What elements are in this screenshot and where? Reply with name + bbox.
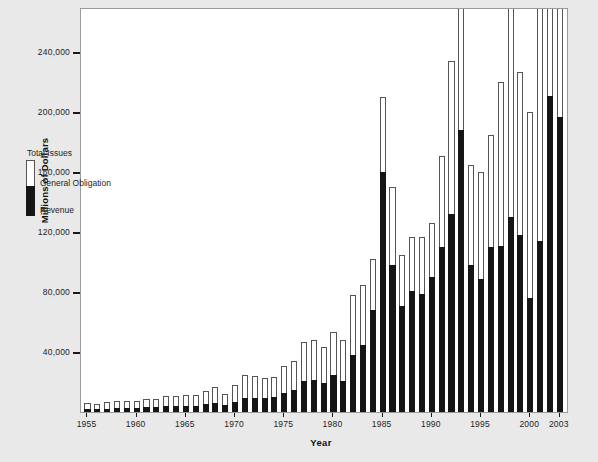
bar-segment-revenue xyxy=(203,404,209,412)
bar-1959 xyxy=(124,401,130,412)
bar-1972 xyxy=(252,376,258,412)
x-axis-title-text: Year xyxy=(310,437,331,448)
bar-1974 xyxy=(271,377,277,412)
bar-1986 xyxy=(389,187,395,412)
y-tick-label: 80,000 xyxy=(0,287,70,297)
x-tick-mark xyxy=(480,413,481,417)
bar-segment-revenue xyxy=(557,117,563,413)
bar-1990 xyxy=(429,223,435,412)
bar-1981 xyxy=(340,340,346,412)
bar-segment-revenue xyxy=(291,390,297,412)
x-tick-label: 1980 xyxy=(312,419,352,429)
bar-segment-revenue xyxy=(271,397,277,412)
bar-segment-revenue xyxy=(193,406,199,412)
bar-segment-revenue xyxy=(114,408,120,412)
bar-1984 xyxy=(370,259,376,412)
x-tick-label: 1995 xyxy=(460,419,500,429)
chart-legend: Total Issues General Obligation Revenue xyxy=(26,148,196,228)
bar-segment-revenue xyxy=(389,265,395,412)
bar-segment-revenue xyxy=(468,265,474,412)
bar-2001 xyxy=(537,9,543,412)
bar-segment-revenue xyxy=(252,398,258,412)
bar-segment-revenue xyxy=(370,310,376,412)
bar-segment-revenue xyxy=(399,306,405,413)
x-tick-mark xyxy=(185,413,186,417)
legend-label-general-obligation: General Obligation xyxy=(40,178,111,188)
bar-segment-revenue xyxy=(517,235,523,412)
bar-1998 xyxy=(508,9,514,412)
bar-1973 xyxy=(262,378,268,413)
bar-1964 xyxy=(173,396,179,412)
bar-1962 xyxy=(153,399,159,412)
bar-1999 xyxy=(517,72,523,413)
x-tick-mark xyxy=(559,413,560,417)
bar-segment-revenue xyxy=(429,277,435,412)
bar-segment-revenue xyxy=(419,294,425,413)
bar-segment-revenue xyxy=(173,406,179,412)
bar-1969 xyxy=(222,394,228,412)
bar-segment-revenue xyxy=(409,291,415,413)
bar-segment-revenue xyxy=(498,246,504,413)
bar-1960 xyxy=(134,401,140,412)
bar-1996 xyxy=(488,135,494,413)
bar-1997 xyxy=(498,82,504,412)
bar-1988 xyxy=(409,237,415,413)
x-tick-label: 1960 xyxy=(116,419,156,429)
bar-segment-revenue xyxy=(153,407,159,412)
y-tick-label: 40,000 xyxy=(0,347,70,357)
x-tick-mark xyxy=(283,413,284,417)
bar-segment-revenue xyxy=(134,408,140,412)
bar-1985 xyxy=(380,97,386,412)
bar-2000 xyxy=(527,112,533,412)
bar-segment-revenue xyxy=(537,241,543,412)
bar-1970 xyxy=(232,385,238,412)
bar-segment-revenue xyxy=(508,217,514,412)
bar-1965 xyxy=(183,395,189,412)
bar-segment-revenue xyxy=(94,409,100,412)
bar-segment-revenue xyxy=(222,405,228,412)
bar-1982 xyxy=(350,295,356,412)
bar-1977 xyxy=(301,342,307,412)
x-tick-label: 1975 xyxy=(263,419,303,429)
bar-1957 xyxy=(104,402,110,412)
bar-1979 xyxy=(321,347,327,412)
y-tick-label: 120,000 xyxy=(0,227,70,237)
legend-label-revenue: Revenue xyxy=(40,205,74,215)
bar-2002 xyxy=(547,9,553,412)
bar-segment-revenue xyxy=(262,398,268,412)
bar-1993 xyxy=(458,9,464,412)
bar-1966 xyxy=(193,395,199,412)
x-tick-label: 1970 xyxy=(214,419,254,429)
bar-1983 xyxy=(360,285,366,413)
y-tick-label: 240,000 xyxy=(0,47,70,57)
bar-segment-revenue xyxy=(163,406,169,412)
bar-1978 xyxy=(311,340,317,412)
x-tick-mark xyxy=(382,413,383,417)
bar-1958 xyxy=(114,401,120,412)
bar-segment-revenue xyxy=(340,381,346,413)
x-tick-mark xyxy=(136,413,137,417)
bar-segment-revenue xyxy=(124,408,130,412)
chart-screenshot: Millions of Dollars 40,00080,000120,0001… xyxy=(0,0,598,462)
x-tick-label: 2003 xyxy=(539,419,579,429)
x-tick-label: 1965 xyxy=(165,419,205,429)
bar-1961 xyxy=(143,399,149,412)
legend-swatch xyxy=(26,160,35,216)
bar-segment-revenue xyxy=(232,402,238,412)
bar-segment-revenue xyxy=(360,345,366,413)
bar-1976 xyxy=(291,361,297,412)
legend-label-total-issues: Total Issues xyxy=(27,148,72,158)
x-tick-mark xyxy=(234,413,235,417)
bar-1975 xyxy=(281,366,287,412)
x-tick-mark xyxy=(332,413,333,417)
bar-segment-revenue xyxy=(527,298,533,412)
x-tick-mark xyxy=(529,413,530,417)
x-tick-mark xyxy=(86,413,87,417)
bar-1968 xyxy=(212,387,218,412)
bar-segment-revenue xyxy=(321,383,327,412)
bar-1994 xyxy=(468,165,474,413)
bar-segment-revenue xyxy=(301,381,307,412)
x-axis-title: Year xyxy=(0,437,598,448)
bar-1963 xyxy=(163,396,169,412)
x-tick-mark xyxy=(431,413,432,417)
